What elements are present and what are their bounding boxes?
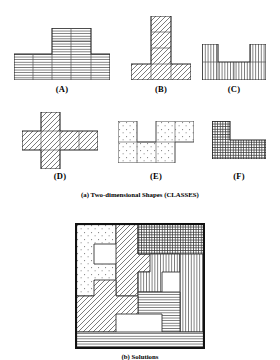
shape-b-label: (B) (131, 84, 191, 94)
shape-e-label: (E) (118, 171, 194, 181)
piece-vertical-right (180, 254, 204, 332)
shape-d (22, 112, 98, 169)
shape-a-label: (A) (14, 84, 110, 94)
piece-horizontal-mid (138, 292, 180, 332)
piece-horizontal-bottom (76, 332, 204, 348)
figure-page: (A) (B) (0, 0, 280, 360)
panel-b-solutions: (b) Solutions (0, 205, 280, 360)
shape-d-label: (D) (22, 171, 98, 181)
solutions-packing-diagram (75, 223, 205, 349)
panel-b-caption: (b) Solutions (0, 353, 280, 360)
shape-c-label: (C) (202, 84, 266, 94)
shape-e (118, 121, 194, 163)
shape-a (14, 28, 110, 80)
shape-f-label: (F) (212, 171, 266, 181)
panel-a-shapes: (A) (B) (0, 0, 280, 200)
shape-f (212, 121, 266, 159)
shape-c (202, 44, 266, 80)
panel-a-caption: (a) Two-dimensional Shapes (CLASSES) (0, 191, 280, 198)
shape-b (131, 16, 191, 80)
